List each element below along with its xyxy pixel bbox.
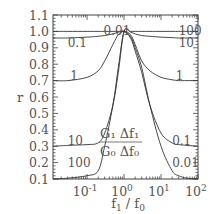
y-tick-label: 0.6 xyxy=(29,90,49,105)
curve-label-left: 10 xyxy=(68,134,83,148)
y-tick-label: 1.1 xyxy=(29,8,49,23)
curve-label-right: 0.1 xyxy=(172,134,191,148)
parameter-denominator: G₀ Δf₀ xyxy=(100,144,139,159)
y-tick-label: 0.4 xyxy=(29,122,49,137)
curve-label-right: 1 xyxy=(176,69,184,83)
y-tick-label: 0.7 xyxy=(29,73,49,88)
curve-label-left: 1 xyxy=(70,69,78,83)
y-tick-label: 0.5 xyxy=(29,106,49,121)
x-tick-label: 10-1 xyxy=(73,183,98,199)
curve-label-left: 0.1 xyxy=(68,36,87,50)
curve-label-right: 0.01 xyxy=(172,156,199,170)
chart: 0.10.20.30.40.50.60.70.80.91.01.1 10-110… xyxy=(0,0,215,214)
curve-label-left: 0.01 xyxy=(104,24,131,38)
y-axis-label: r xyxy=(17,90,24,105)
x-tick-label: 102 xyxy=(185,183,207,199)
y-tick-label: 0.3 xyxy=(29,139,49,154)
parameter-numerator: G₁ Δf₁ xyxy=(100,126,139,141)
curve-label-right: 10 xyxy=(179,36,194,50)
x-tick-label: 101 xyxy=(148,183,170,199)
y-tick-label: 1.0 xyxy=(29,24,49,39)
curve-label-left: 100 xyxy=(68,156,91,170)
y-tick-label: 0.1 xyxy=(29,172,49,187)
y-tick-label: 0.8 xyxy=(29,57,49,72)
y-tick-label: 0.9 xyxy=(29,40,49,55)
y-tick-label: 0.2 xyxy=(29,155,49,170)
